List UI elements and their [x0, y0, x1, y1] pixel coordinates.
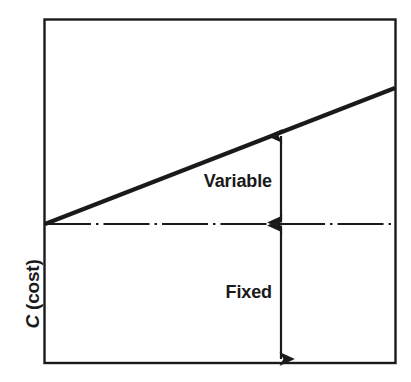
variable-cost-label: Variable — [152, 170, 272, 192]
fixed-cost-label: Fixed — [152, 281, 272, 303]
y-axis-symbol: C — [22, 315, 43, 329]
y-axis-units: (cost) — [22, 259, 43, 315]
y-axis-title: C (cost) — [20, 239, 46, 349]
chart-figure: C (cost) Variable Fixed — [0, 0, 411, 382]
